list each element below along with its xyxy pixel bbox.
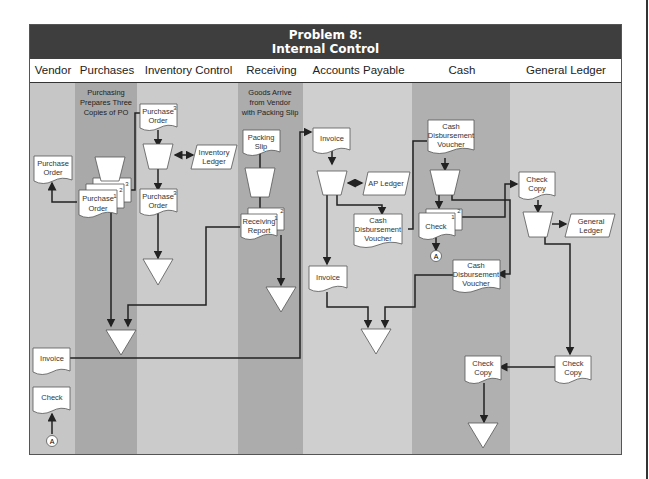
- svg-text:Voucher: Voucher: [364, 234, 392, 243]
- svg-text:Disbursement: Disbursement: [355, 225, 402, 234]
- svg-text:Order: Order: [148, 116, 168, 125]
- flowchart-diagram: Purchasing Prepares Three Copies of PO G…: [0, 0, 649, 479]
- note-purchasing: Purchasing Prepares Three Copies of PO: [80, 88, 132, 117]
- svg-text:Ledger: Ledger: [579, 226, 603, 235]
- svg-text:Prepares Three: Prepares Three: [80, 98, 132, 107]
- svg-text:Invoice: Invoice: [316, 273, 340, 282]
- svg-text:Cash: Cash: [467, 261, 485, 270]
- svg-text:Order: Order: [148, 201, 168, 210]
- svg-text:Invoice: Invoice: [320, 134, 344, 143]
- svg-text:Cash: Cash: [442, 122, 460, 131]
- svg-text:Receiving: Receiving: [243, 217, 276, 226]
- svg-text:Purchase: Purchase: [37, 159, 69, 168]
- lane-general-ledger: [510, 83, 621, 454]
- svg-text:Voucher: Voucher: [437, 140, 465, 149]
- svg-text:Copy: Copy: [474, 368, 492, 377]
- svg-text:Purchase: Purchase: [82, 194, 114, 203]
- svg-text:Inventory: Inventory: [199, 148, 230, 157]
- lane-purchases: [75, 83, 137, 454]
- svg-text:Check: Check: [41, 393, 63, 402]
- svg-text:Copy: Copy: [564, 368, 582, 377]
- svg-text:Copy: Copy: [528, 184, 546, 193]
- svg-text:Ledger: Ledger: [202, 157, 226, 166]
- svg-text:Check: Check: [425, 222, 447, 231]
- svg-text:Disbursement: Disbursement: [428, 131, 475, 140]
- svg-text:from Vendor: from Vendor: [250, 98, 291, 107]
- svg-text:A: A: [434, 253, 439, 260]
- svg-text:Order: Order: [43, 168, 63, 177]
- svg-text:Order: Order: [88, 204, 108, 213]
- svg-text:with Packing Slip: with Packing Slip: [241, 108, 299, 117]
- svg-text:AP Ledger: AP Ledger: [368, 179, 404, 188]
- svg-text:Slip: Slip: [255, 142, 268, 151]
- svg-text:Packing: Packing: [248, 133, 275, 142]
- svg-text:Purchasing: Purchasing: [87, 88, 125, 97]
- note-receiving: Goods Arrive from Vendor with Packing Sl…: [241, 88, 299, 117]
- svg-text:Check: Check: [472, 359, 494, 368]
- svg-text:Copies of PO: Copies of PO: [84, 108, 129, 117]
- svg-text:Purchase: Purchase: [142, 107, 174, 116]
- svg-text:Invoice: Invoice: [40, 354, 64, 363]
- svg-text:Report: Report: [248, 226, 271, 235]
- svg-text:General: General: [578, 217, 605, 226]
- svg-text:Goods Arrive: Goods Arrive: [248, 88, 291, 97]
- svg-text:Voucher: Voucher: [462, 279, 490, 288]
- svg-text:Check: Check: [562, 359, 584, 368]
- svg-text:Purchase: Purchase: [142, 192, 174, 201]
- svg-text:Check: Check: [526, 175, 548, 184]
- svg-text:Cash: Cash: [369, 216, 387, 225]
- svg-text:Disbursement: Disbursement: [453, 270, 500, 279]
- svg-text:A: A: [50, 438, 55, 445]
